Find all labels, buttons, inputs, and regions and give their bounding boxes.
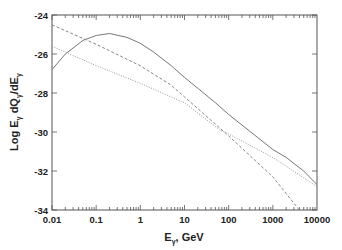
y-tick-label: -28 xyxy=(34,88,48,99)
plot-frame xyxy=(52,15,317,210)
x-tick-labels: 0.010.1110100100010000 xyxy=(43,214,330,225)
chart: 0.010.1110100100010000 -24-26-28-30-32-3… xyxy=(0,0,342,250)
x-tick-label: 0.01 xyxy=(43,214,62,225)
x-axis-title: Eγ, GeV xyxy=(164,231,204,246)
y-tick-labels: -24-26-28-30-32-34 xyxy=(34,10,48,216)
x-tick-label: 0.1 xyxy=(90,214,104,225)
dotted-series-line xyxy=(52,46,317,186)
x-tick-label: 1 xyxy=(138,214,144,225)
y-tick-label: -26 xyxy=(34,49,48,60)
y-axis-title: Log Eγ dQγ/dEγ xyxy=(8,73,23,151)
x-tick-label: 100 xyxy=(221,214,237,225)
axis-ticks xyxy=(52,15,317,210)
x-tick-label: 10000 xyxy=(304,214,330,225)
plot-border xyxy=(52,15,317,210)
y-tick-label: -32 xyxy=(34,166,48,177)
dashed-series-line xyxy=(52,25,299,210)
y-tick-label: -30 xyxy=(34,127,48,138)
data-series xyxy=(52,25,317,210)
solid-series-line xyxy=(52,34,317,185)
x-tick-label: 10 xyxy=(179,214,190,225)
y-tick-label: -24 xyxy=(34,10,48,21)
x-tick-label: 1000 xyxy=(262,214,283,225)
y-tick-label: -34 xyxy=(34,205,48,216)
